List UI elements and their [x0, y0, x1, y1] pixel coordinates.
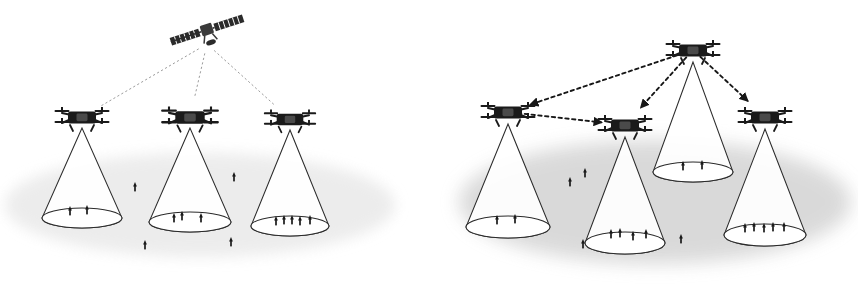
uav-relay-link-right-0	[531, 53, 684, 104]
satellite-uav-link-left-1	[195, 54, 205, 98]
panel-satellite-relay-scenario	[5, 13, 395, 257]
user-arrow-stem-icon	[569, 181, 571, 187]
user-arrow-stem-icon	[744, 227, 746, 233]
rotor-post-icon	[308, 120, 310, 124]
drone-rotor-icon	[203, 107, 219, 112]
user-arrow-stem-icon	[230, 241, 232, 247]
rotor-post-icon	[210, 107, 212, 111]
user-arrow-stem-icon	[582, 243, 584, 249]
user-arrow-stem-icon	[233, 176, 235, 182]
satellite-solar-panel-icon	[211, 14, 244, 31]
rotor-post-icon	[270, 120, 272, 124]
drone-payload-icon	[184, 113, 196, 121]
user-arrow-stem-icon	[275, 220, 277, 226]
rotor-post-icon	[527, 113, 529, 117]
drone-payload-icon	[688, 47, 699, 55]
rotor-post-icon	[672, 51, 674, 55]
rotor-post-icon	[168, 107, 170, 111]
cone-footprint-ellipse	[42, 208, 122, 228]
rotor-post-icon	[61, 107, 63, 111]
panel-uav-relay-mesh-scenario	[459, 40, 851, 264]
drone-rotor-icon	[598, 115, 613, 120]
satellite-uav-link-left-2	[214, 51, 275, 106]
rotor-post-icon	[784, 107, 786, 111]
satellite-body-icon	[199, 22, 214, 36]
rotor-post-icon	[270, 110, 272, 114]
cone-footprint-ellipse	[585, 232, 665, 254]
drone-payload-icon	[620, 122, 631, 130]
user-arrow-stem-icon	[200, 217, 202, 223]
rotor-post-icon	[784, 118, 786, 122]
rotor-post-icon	[487, 113, 489, 117]
satellite-uav-link-left-0	[99, 49, 198, 107]
user-arrow-stem-icon	[680, 238, 682, 244]
cone-footprint-ellipse	[653, 162, 733, 182]
user-arrow-stem-icon	[291, 219, 293, 225]
rotor-post-icon	[672, 40, 674, 44]
drone-rotor-icon	[738, 107, 753, 112]
rotor-post-icon	[61, 118, 63, 122]
rotor-post-icon	[644, 126, 646, 130]
user-arrow-stem-icon	[772, 226, 774, 232]
drone-rotor-icon	[481, 102, 496, 107]
drone-payload-icon	[760, 114, 771, 122]
cone-footprint-ellipse	[149, 212, 231, 232]
drone-rotor-icon	[264, 110, 278, 115]
drone-right-R0[interactable]	[666, 40, 721, 64]
drone-rotor-icon	[778, 107, 793, 112]
user-arrow-stem-icon	[682, 165, 684, 171]
user-arrow-stem-icon	[181, 215, 183, 221]
drone-right-R1[interactable]	[481, 102, 536, 126]
drone-right-R2[interactable]	[598, 115, 653, 139]
drone-rotor-icon	[95, 107, 110, 112]
rotor-post-icon	[308, 110, 310, 114]
drone-rotor-icon	[706, 40, 721, 45]
user-arrow-stem-icon	[173, 217, 175, 223]
rotor-post-icon	[744, 118, 746, 122]
user-arrow-stem-icon	[645, 233, 647, 239]
rotor-post-icon	[604, 115, 606, 119]
rotor-post-icon	[101, 107, 103, 111]
drone-rotor-icon	[666, 40, 681, 45]
user-arrow-stem-icon	[69, 210, 71, 216]
satellite[interactable]	[169, 13, 248, 57]
user-arrow-stem-icon	[309, 219, 311, 225]
drone-rotor-icon	[302, 110, 316, 115]
user-arrow-stem-icon	[763, 227, 765, 233]
user-arrow-stem-icon	[619, 232, 621, 238]
cone-footprint-ellipse	[466, 216, 550, 238]
user-arrow-stem-icon	[144, 244, 146, 250]
cone-footprint-ellipse	[251, 216, 329, 236]
diagram-scene	[0, 0, 858, 284]
user-arrow-stem-icon	[299, 220, 301, 226]
user-arrow-stem-icon	[632, 235, 634, 241]
user-arrow-stem-icon	[134, 186, 136, 192]
satellite-dish-icon	[205, 38, 216, 46]
rotor-post-icon	[644, 115, 646, 119]
figure-canvas	[0, 0, 858, 284]
uav-relay-link-right-3	[700, 57, 747, 101]
drone-rotor-icon	[638, 115, 653, 120]
drone-payload-icon	[503, 109, 514, 117]
drone-payload-icon	[285, 116, 295, 123]
user-arrow-stem-icon	[584, 172, 586, 178]
user-arrow-stem-icon	[753, 226, 755, 232]
rotor-post-icon	[168, 118, 170, 122]
drone-rotor-icon	[161, 107, 177, 112]
user-arrow-stem-icon	[283, 219, 285, 225]
user-arrow-stem-icon	[783, 226, 785, 232]
user-arrow-stem-icon	[610, 233, 612, 239]
rotor-post-icon	[712, 40, 714, 44]
rotor-post-icon	[487, 102, 489, 106]
rotor-post-icon	[101, 118, 103, 122]
rotor-post-icon	[527, 102, 529, 106]
rotor-post-icon	[712, 51, 714, 55]
rotor-post-icon	[744, 107, 746, 111]
user-arrow-stem-icon	[514, 218, 516, 224]
drone-right-R3[interactable]	[738, 107, 793, 131]
user-arrow-stem-icon	[86, 209, 88, 215]
satellite-solar-panel-icon	[170, 28, 203, 45]
user-arrow-stem-icon	[496, 219, 498, 225]
solar-panel-boom-icon	[213, 28, 215, 29]
user-arrow-stem-icon	[701, 164, 703, 170]
